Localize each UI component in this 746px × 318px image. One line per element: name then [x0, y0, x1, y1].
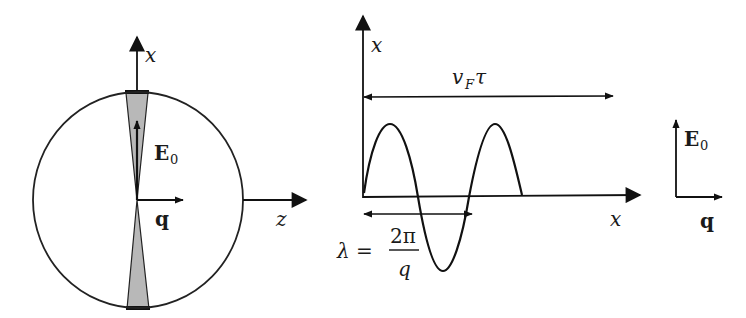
e0-subscript: 0 [170, 152, 178, 167]
lower-cone [127, 200, 149, 309]
svg-text:2π: 2π [390, 224, 416, 248]
e0-direction-subscript: 0 [700, 138, 708, 153]
wavelength-formula: λ = 2π q [336, 224, 419, 281]
horizontal-axis [363, 195, 640, 197]
diagram-canvas: x z E 0 q x x v F τ λ = 2π q [0, 0, 746, 318]
q-direction-label: q [700, 209, 714, 233]
svg-text:τ: τ [475, 65, 487, 89]
svg-text:λ =: λ = [336, 239, 373, 263]
middle-panel: x x v F τ λ = 2π q [336, 16, 640, 281]
mean-free-path-label: v F τ [452, 65, 487, 92]
x-axis-label: x [145, 43, 156, 67]
right-panel: E 0 q [676, 120, 722, 233]
e0-direction-label: E [684, 127, 699, 151]
svg-text:v: v [452, 65, 464, 89]
q-label: q [155, 207, 169, 231]
left-panel: x z E 0 q [33, 37, 306, 310]
z-axis-label: z [275, 207, 287, 231]
e0-label: E [154, 141, 169, 165]
mean-free-path-arrow [364, 96, 613, 97]
svg-text:q: q [398, 257, 411, 281]
horizontal-axis-label: x [610, 207, 621, 231]
svg-text:F: F [464, 77, 475, 92]
vertical-axis-label: x [371, 33, 382, 57]
